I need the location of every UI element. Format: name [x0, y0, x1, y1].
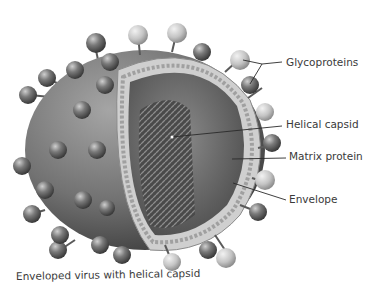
virus-illustration [0, 0, 371, 288]
label-envelope: Envelope [289, 193, 337, 205]
label-glycoproteins: Glycoproteins [286, 56, 358, 68]
virus-diagram: Glycoproteins Helical capsid Matrix prot… [0, 0, 371, 288]
helical-capsid-shape [139, 100, 195, 228]
label-matrix-protein: Matrix protein [289, 150, 363, 162]
label-helical-capsid: Helical capsid [286, 118, 359, 130]
